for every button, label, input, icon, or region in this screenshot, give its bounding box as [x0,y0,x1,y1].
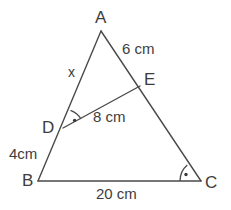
measurement-label-ad: x [68,65,75,79]
measurement-label-db: 4cm [9,146,37,161]
measurement-label-bc: 20 cm [96,186,137,201]
measurement-label-de: 8 cm [93,109,126,124]
vertex-label-c: C [205,174,217,191]
vertex-label-a: A [95,9,106,26]
geometry-diagram: A B C D E 6 cm 8 cm 4cm 20 cm x [0,0,231,210]
vertex-label-e: E [144,71,155,88]
right-angle-arc-d [71,110,82,119]
vertex-label-b: B [22,172,33,189]
segment-ab [38,31,101,181]
measurement-label-ae: 6 cm [122,41,155,56]
geometry-figure-svg [0,0,231,210]
right-angle-dot-c [184,173,187,176]
vertex-label-d: D [42,119,54,136]
right-angle-dot-d [73,119,76,122]
